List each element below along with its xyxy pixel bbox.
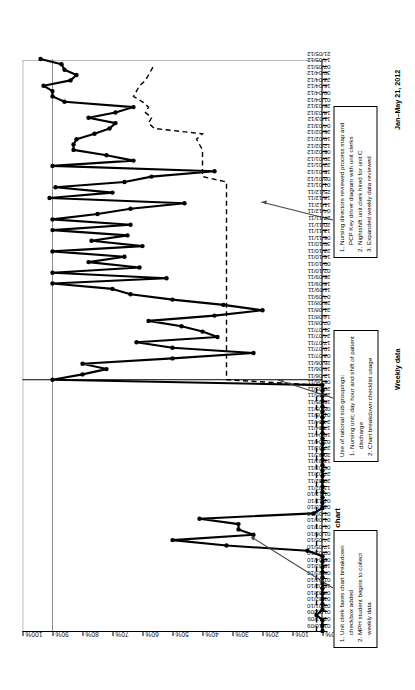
x-tick	[322, 256, 327, 257]
annotation-item: MPH student begins to collect weekly dat…	[355, 535, 373, 635]
annotation-item: Nursing directors reviewed process map a…	[337, 111, 355, 245]
x-tick	[322, 506, 327, 507]
x-tick	[322, 447, 327, 448]
y-tick-label: 10%	[295, 631, 308, 638]
x-tick	[322, 197, 327, 198]
x-tick	[322, 243, 327, 244]
x-tick	[322, 605, 327, 606]
x-tick	[322, 414, 327, 415]
x-tick	[322, 539, 327, 540]
x-tick	[322, 171, 327, 172]
x-tick	[322, 407, 327, 408]
y-tick-label: 90%	[55, 631, 68, 638]
x-tick	[322, 546, 327, 547]
x-tick	[322, 532, 327, 533]
y-tick	[82, 631, 83, 636]
x-tick	[322, 467, 327, 468]
leader-arrow-3	[262, 200, 267, 205]
x-tick	[322, 375, 327, 376]
x-tick	[322, 388, 327, 389]
annotation-lead: Use of rational sub groupings:	[337, 335, 346, 457]
x-tick	[322, 453, 327, 454]
x-tick	[322, 401, 327, 402]
x-tick	[322, 237, 327, 238]
x-tick	[322, 125, 327, 126]
annotation-box-3: Nursing directors reviewed process map a…	[333, 106, 377, 258]
x-tick	[322, 177, 327, 178]
x-tick	[322, 335, 327, 336]
x-tick	[322, 315, 327, 316]
x-tick	[322, 72, 327, 73]
x-tick	[322, 427, 327, 428]
x-tick	[322, 611, 327, 612]
x-tick	[322, 348, 327, 349]
annotation-item: Unit clerk faxes chart breakdown checkbo…	[337, 535, 355, 635]
x-tick	[322, 66, 327, 67]
x-tick	[322, 296, 327, 297]
annotation-item: Expanded weekly data reviewed	[364, 111, 373, 245]
y-tick	[232, 631, 233, 636]
x-tick-label: 21/05/12	[307, 51, 330, 58]
annotation-list-3: Nursing directors reviewed process map a…	[337, 111, 373, 253]
x-tick	[322, 79, 327, 80]
x-tick	[322, 250, 327, 251]
x-tick	[322, 85, 327, 86]
y-tick	[22, 631, 23, 636]
x-tick	[322, 151, 327, 152]
x-tick	[322, 184, 327, 185]
y-tick	[142, 631, 143, 636]
y-tick	[112, 631, 113, 636]
x-tick	[322, 565, 327, 566]
period-label: Jan–May 21, 2012	[392, 70, 401, 130]
x-tick	[322, 164, 327, 165]
y-tick	[322, 631, 323, 636]
x-tick	[322, 440, 327, 441]
x-tick	[322, 223, 327, 224]
x-tick	[322, 493, 327, 494]
x-axis-caption: Weekly data	[392, 349, 401, 390]
chart-stage: Fax rate all nursing units P chart Weekl…	[0, 0, 415, 690]
x-tick	[322, 598, 327, 599]
y-tick-label: 50%	[175, 631, 188, 638]
y-tick-label: 30%	[235, 631, 248, 638]
x-tick	[322, 434, 327, 435]
annotation-item: Nightshift unit clerk hired for unit C	[355, 111, 364, 245]
x-tick	[322, 552, 327, 553]
y-tick-label: 40%	[205, 631, 218, 638]
x-tick	[322, 131, 327, 132]
y-tick	[172, 631, 173, 636]
y-tick-label: 100%	[25, 631, 42, 638]
y-tick	[202, 631, 203, 636]
x-tick	[322, 138, 327, 139]
x-tick	[322, 381, 327, 382]
x-tick	[322, 342, 327, 343]
x-tick	[322, 519, 327, 520]
x-tick	[322, 144, 327, 145]
x-tick	[322, 112, 327, 113]
x-tick	[322, 460, 327, 461]
x-tick	[322, 105, 327, 106]
x-tick	[322, 302, 327, 303]
y-tick	[262, 631, 263, 636]
x-tick	[322, 230, 327, 231]
x-tick	[322, 309, 327, 310]
x-tick	[322, 368, 327, 369]
x-tick	[322, 421, 327, 422]
x-tick	[322, 118, 327, 119]
y-tick	[52, 631, 53, 636]
x-tick	[322, 263, 327, 264]
x-tick	[322, 473, 327, 474]
x-tick	[322, 322, 327, 323]
x-tick	[322, 59, 327, 60]
x-tick	[322, 513, 327, 514]
annotation-item: Nursing unit; day hour and shift of pati…	[347, 335, 365, 449]
x-tick	[322, 572, 327, 573]
plot-area	[22, 60, 322, 632]
annotation-box-2: Use of rational sub groupings: Nursing u…	[333, 330, 378, 462]
x-tick	[322, 276, 327, 277]
x-tick	[322, 191, 327, 192]
x-tick	[322, 361, 327, 362]
annotation-item: Chart breakdown checklist usage	[365, 335, 374, 449]
x-tick	[322, 98, 327, 99]
x-tick	[322, 283, 327, 284]
